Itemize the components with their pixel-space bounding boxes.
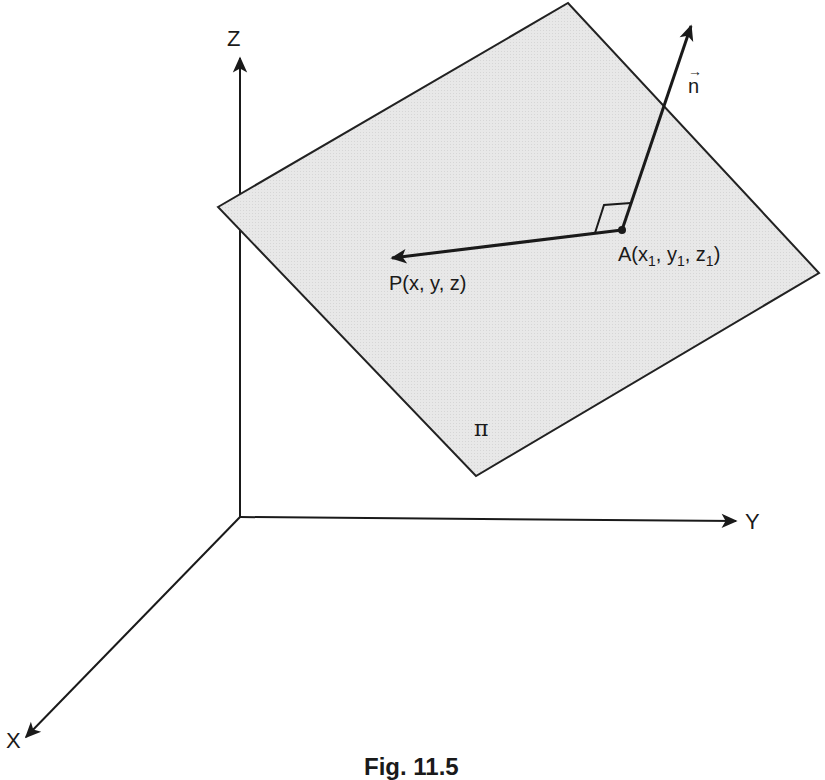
z-axis-label: Z xyxy=(227,28,240,50)
vector-arrow-icon: → xyxy=(688,64,702,78)
point-a-label: A(x1, y1, z1) xyxy=(618,244,720,264)
point-a-sub-z: 1 xyxy=(706,253,714,269)
point-p-label: P(x, y, z) xyxy=(389,273,466,293)
point-a-sub-y: 1 xyxy=(677,253,685,269)
figure-caption: Fig. 11.5 xyxy=(364,755,459,779)
point-a-suffix: ) xyxy=(714,243,721,265)
x-axis-label: X xyxy=(6,730,21,752)
point-a-sub-x: 1 xyxy=(648,253,656,269)
plane-pi xyxy=(218,3,819,476)
plane-label: π xyxy=(474,418,488,440)
y-axis-label: Y xyxy=(745,511,760,533)
y-axis xyxy=(240,517,736,521)
point-a-prefix: A(x xyxy=(618,243,648,265)
point-a-mid-z: , z xyxy=(685,243,706,265)
normal-vector-label: → n xyxy=(688,76,699,96)
point-a-mid-y: , y xyxy=(656,243,677,265)
x-axis xyxy=(26,517,240,737)
point-a-dot xyxy=(618,226,626,234)
